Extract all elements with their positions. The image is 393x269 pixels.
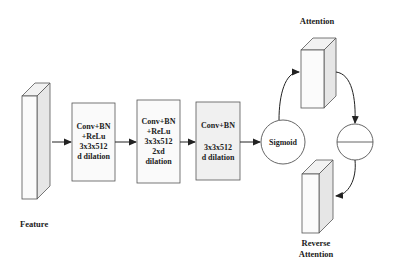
block3-line3: 3x3x512: [204, 143, 232, 152]
block3-line1: Conv+BN: [201, 121, 235, 130]
attention-label: Attention: [300, 16, 335, 26]
arrow-attention-to-subtract: [336, 72, 355, 123]
reverse-attention-label-line1: Reverse: [302, 238, 331, 248]
diagram-canvas: Feature Conv+BN +ReLu 3x3x512 d dilation…: [0, 0, 393, 269]
reverse-attention-block: [302, 160, 333, 233]
conv-block-3: Conv+BN 3x3x512 d dilation: [196, 102, 240, 180]
attention-block: [301, 38, 336, 108]
block2-line3: 3x3x512: [145, 137, 173, 146]
arrow-sigmoid-to-attention: [279, 72, 299, 120]
block3-line4: d dilation: [202, 153, 235, 162]
sigmoid-node: Sigmoid: [261, 120, 305, 164]
arrow-subtract-to-reverse: [336, 160, 355, 196]
block2-line2: +ReLu: [147, 127, 171, 136]
subtract-node: [337, 124, 373, 160]
sigmoid-label: Sigmoid: [269, 138, 298, 147]
conv-block-1: Conv+BN +ReLu 3x3x512 d dilation: [72, 103, 115, 181]
block2-line1: Conv+BN: [142, 117, 176, 126]
block1-line4: d dilation: [77, 152, 110, 161]
reverse-attention-label-line2: Attention: [299, 249, 334, 259]
block1-line2: +ReLu: [82, 132, 106, 141]
block1-line3: 3x3x512: [80, 142, 108, 151]
block1-line1: Conv+BN: [77, 122, 111, 131]
block2-line5: dilation: [145, 157, 172, 166]
feature-block: [22, 83, 50, 199]
conv-block-2: Conv+BN +ReLu 3x3x512 2xd dilation: [137, 100, 180, 183]
feature-label: Feature: [20, 219, 48, 229]
block2-line4: 2xd: [152, 147, 165, 156]
